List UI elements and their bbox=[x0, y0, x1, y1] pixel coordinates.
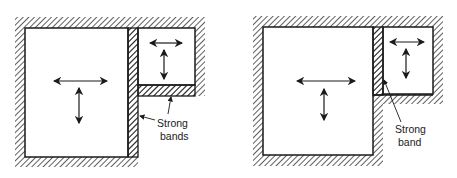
left-horizontal-strong-band bbox=[138, 85, 195, 96]
right-vertical-strong-band bbox=[373, 27, 383, 95]
diagram-canvas: Strong bands Strong band bbox=[0, 0, 457, 178]
left-label-line1: Strong bbox=[157, 117, 188, 129]
left-leader-to-horizontal-band bbox=[168, 97, 171, 114]
left-figure: Strong bands bbox=[15, 17, 205, 167]
left-large-room bbox=[25, 28, 128, 157]
left-leader-to-vertical-band bbox=[140, 116, 155, 120]
left-label-line2: bands bbox=[160, 130, 189, 142]
right-label-line1: Strong bbox=[395, 123, 426, 135]
left-small-room bbox=[138, 28, 195, 85]
right-small-room bbox=[383, 27, 433, 94]
right-label-line2: band bbox=[398, 136, 422, 148]
right-figure: Strong band bbox=[253, 16, 443, 166]
left-vertical-strong-band bbox=[128, 28, 138, 157]
right-large-room bbox=[263, 27, 373, 155]
